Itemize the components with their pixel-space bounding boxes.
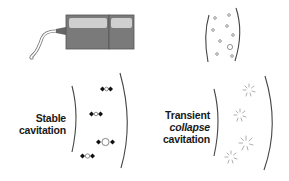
- wavefront-left: [214, 89, 218, 156]
- collapse-burst-icon: [225, 151, 237, 163]
- transient-cavitation-illustration: [214, 76, 272, 170]
- wavefront-right: [264, 76, 272, 170]
- transient-label-line1: Transient: [148, 109, 210, 121]
- stable-cavitation-illustration: [72, 73, 127, 168]
- collapse-burst-icon: [239, 136, 253, 150]
- oscillating-bubble: [100, 87, 113, 92]
- cavitation-diagram: [0, 0, 289, 181]
- oscillating-bubble: [80, 154, 95, 159]
- collapse-burst-icon: [234, 109, 246, 121]
- transient-label-line3: cavitation: [148, 133, 210, 145]
- wavefront-right: [235, 8, 240, 61]
- wavefront-left: [72, 86, 76, 152]
- stable-label-line1: Stable: [14, 112, 66, 124]
- microbubble-field: [206, 8, 240, 62]
- oscillating-bubble: [96, 138, 115, 145]
- stable-cavitation-label: Stable cavitation: [14, 112, 66, 136]
- transient-label-line2: collapse: [148, 121, 210, 133]
- collapse-burst-icon: [243, 84, 255, 96]
- stable-label-line2: cavitation: [14, 124, 66, 136]
- wavefront-left: [206, 15, 209, 62]
- transducer-icon: [31, 15, 134, 58]
- wavefront-right: [120, 73, 127, 168]
- transient-cavitation-label: Transient collapse cavitation: [148, 109, 210, 145]
- oscillating-bubble: [89, 112, 103, 117]
